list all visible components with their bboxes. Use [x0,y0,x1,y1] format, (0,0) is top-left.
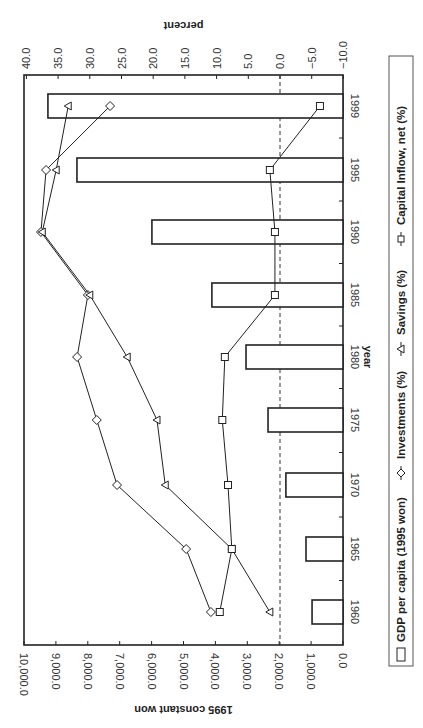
year-label: 1995 [349,158,361,182]
legend-label: Savings (%) [395,270,407,335]
gdp-tick-label: 0.0 [337,653,349,668]
square-marker [216,609,223,616]
percent-tick-label: 20.0 [147,48,159,69]
gdp-bar [48,94,343,118]
gdp-tick-label: 6,000.0 [146,653,158,690]
percent-tick-label: 40.0 [20,48,32,69]
legend-gdp: GDP per capita (1995 won) [395,497,407,661]
gdp-tick-label: 5,000.0 [178,653,190,690]
square-marker [219,417,226,424]
year-label: 1965 [349,537,361,561]
year-label: 1960 [349,600,361,624]
percent-tick-label: 35.0 [52,48,64,69]
gdp-tick-label: 7,000.0 [114,653,126,690]
square-marker [266,167,273,174]
percent-tick-label: −5.0 [306,47,318,69]
square-icon [398,236,404,242]
percent-tick-label: 0.0 [274,54,286,69]
gdp-tick-label: 8,000.0 [82,653,94,690]
diamond-marker [206,608,215,617]
square-marker [225,482,232,489]
gdp-tick-label: 1,000.0 [305,653,317,690]
triangle-marker [123,353,130,361]
gdp-bar [286,473,343,497]
year-label: 1990 [349,220,361,244]
gdp-tick-label: 10,000.0 [18,653,30,696]
gdp-axis-title: 1995 constant won [134,704,233,716]
gdp-bar [246,345,343,369]
percent-tick-label: 15.0 [179,48,191,69]
percent-tick-label: −10.0 [337,41,349,69]
legend-label: Investments (%) [395,371,407,459]
year-axis-title: year [362,346,374,369]
gdp-tick-label: 3,000.0 [241,653,253,690]
square-marker [271,292,278,299]
square-marker [316,103,323,110]
diamond-marker [73,353,82,362]
triangle-marker [266,608,273,616]
gdp-bar [152,220,343,244]
year-label: 1970 [349,473,361,497]
percent-tick-label: 5.0 [242,54,254,69]
percent-tick-label: 25.0 [116,48,128,69]
gdp-bar [268,408,343,432]
gdp-bar [306,537,343,561]
gdp-tick-label: 9,000.0 [50,653,62,690]
year-label: 1975 [349,408,361,432]
percent-tick-label: 30.0 [84,48,96,69]
gdp-bar [77,158,343,182]
square-marker [228,546,235,553]
triangle-marker [153,416,160,424]
year-label: 1980 [349,345,361,369]
year-label: 1999 [349,94,361,118]
gdp-tick-label: 2,000.0 [273,653,285,690]
square-marker [221,354,228,361]
gdp-bars [48,94,343,624]
year-label: 1985 [349,283,361,307]
legend-capital-inflow: Capital Inflow, net (%) [395,106,407,246]
percent-tick-label: 10.0 [211,48,223,69]
gdp-tick-label: 4,000.0 [209,653,221,690]
square-marker [271,229,278,236]
diamond-marker [92,416,101,425]
chart: −10.0−5.00.05.010.015.020.025.030.035.04… [0,0,423,728]
legend-label: Capital Inflow, net (%) [395,106,407,225]
percent-axis-title: percent [163,20,203,32]
legend: GDP per capita (1995 won)Investments (%)… [389,56,413,666]
legend-bar-swatch [397,648,405,661]
gdp-bar [312,600,343,624]
legend-label: GDP per capita (1995 won) [395,497,407,642]
